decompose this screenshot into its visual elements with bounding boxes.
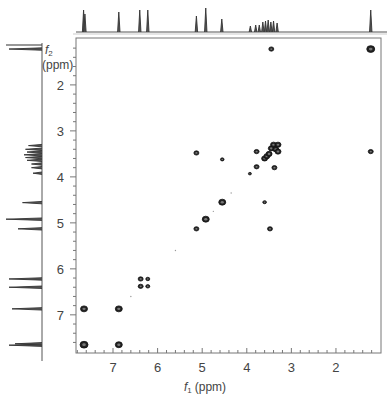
cross-peak <box>254 165 259 169</box>
y-tick-label: 5 <box>57 216 64 231</box>
f2-projection-spectrum <box>6 43 42 361</box>
x-tick-label: 7 <box>109 360 116 375</box>
y-tick-label: 3 <box>57 124 64 139</box>
cross-peak <box>138 277 143 281</box>
plot-frame <box>76 38 381 353</box>
cross-peak <box>146 277 150 280</box>
cross-peak <box>146 285 150 288</box>
cross-peak <box>202 216 209 222</box>
cross-peak <box>248 172 251 175</box>
cross-peak <box>266 151 272 156</box>
cross-peak <box>80 341 88 348</box>
x-tick-label: 4 <box>243 360 250 375</box>
cross-peak <box>275 149 281 154</box>
cross-peak <box>367 46 375 53</box>
y-tick-label: 4 <box>57 170 64 185</box>
cosy-nmr-chart: 765432 234567 f1(ppm) f2 (ppm) <box>0 0 391 399</box>
cross-peak <box>115 342 122 348</box>
cross-peak <box>138 284 143 288</box>
cross-peak <box>219 199 226 205</box>
x-tick-label: 2 <box>332 360 339 375</box>
cross-peak <box>115 306 122 312</box>
f1-projection-spectrum <box>73 8 387 34</box>
x-axis-title: f1(ppm) <box>184 380 226 395</box>
x-tick-label: 3 <box>288 360 295 375</box>
cross-peak <box>194 151 199 155</box>
y-tick-label: 6 <box>57 262 64 277</box>
cross-peak <box>220 158 224 161</box>
cross-peak <box>267 227 272 231</box>
y-tick-label: 2 <box>57 78 64 93</box>
cross-peak <box>254 149 259 153</box>
cross-peak <box>81 306 88 312</box>
cross-peak <box>275 142 281 147</box>
y-tick-label: 7 <box>57 308 64 323</box>
cross-peak <box>272 166 277 170</box>
x-tick-label: 6 <box>154 360 161 375</box>
cross-peak <box>263 201 267 204</box>
cross-peak <box>368 149 373 153</box>
x-tick-label: 5 <box>199 360 206 375</box>
y-axis-title: f2 <box>45 43 53 58</box>
y-axis-unit: (ppm) <box>42 58 73 72</box>
cross-peak <box>269 47 274 51</box>
cross-peak <box>194 227 199 231</box>
y-axis-ticks: 234567 <box>57 48 76 342</box>
